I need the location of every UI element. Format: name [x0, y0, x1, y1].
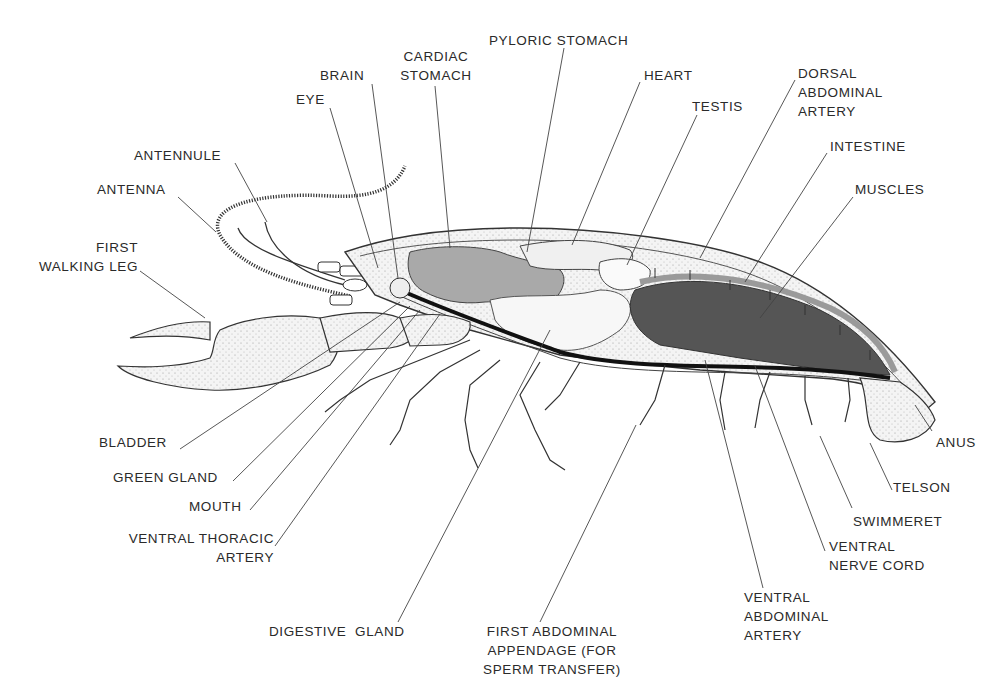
label-dorsal-abdominal-artery: DORSAL ABDOMINAL ARTERY: [798, 64, 883, 121]
label-anus: ANUS: [936, 433, 976, 452]
label-eye: EYE: [296, 90, 325, 109]
label-heart: HEART: [644, 66, 693, 85]
claw: [118, 313, 470, 390]
label-mouth: MOUTH: [189, 497, 242, 516]
label-antennule: ANTENNULE: [134, 146, 221, 165]
label-ventral-nerve-cord: VENTRAL NERVE CORD: [829, 537, 925, 575]
label-first-walking-leg: FIRST WALKING LEG: [20, 238, 138, 276]
label-first-abdominal-appendage: FIRST ABDOMINAL APPENDAGE (FOR SPERM TRA…: [472, 622, 632, 679]
antennule: [238, 222, 345, 285]
label-bladder: BLADDER: [99, 433, 167, 452]
label-telson: TELSON: [893, 478, 951, 497]
label-intestine: INTESTINE: [830, 137, 906, 156]
label-pyloric-stomach: PYLORIC STOMACH: [489, 31, 628, 50]
brain: [390, 278, 410, 298]
label-green-gland: GREEN GLAND: [113, 468, 218, 487]
lobster-anatomy-diagram: PYLORIC STOMACH CARDIAC STOMACH BRAIN HE…: [0, 0, 1008, 698]
label-brain: BRAIN: [320, 66, 364, 85]
label-antenna: ANTENNA: [97, 180, 166, 199]
label-testis: TESTIS: [692, 97, 743, 116]
walking-legs: [325, 340, 580, 470]
label-cardiac-stomach: CARDIAC STOMACH: [396, 47, 476, 85]
label-ventral-abdominal-artery: VENTRAL ABDOMINAL ARTERY: [744, 588, 829, 645]
label-swimmeret: SWIMMERET: [853, 512, 942, 531]
label-ventral-thoracic-artery: VENTRAL THORACIC ARTERY: [100, 529, 274, 567]
label-muscles: MUSCLES: [855, 180, 924, 199]
label-digestive-gland: DIGESTIVE GLAND: [269, 622, 405, 641]
